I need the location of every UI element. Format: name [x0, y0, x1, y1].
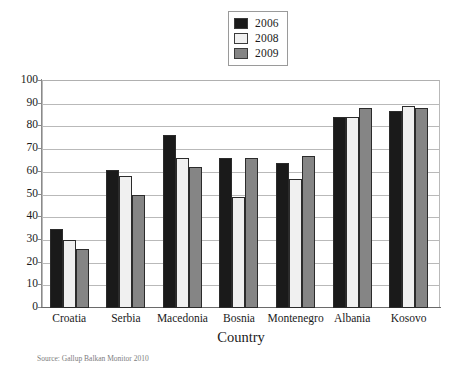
- legend-entry: 2006: [234, 16, 279, 31]
- legend-label-2008: 2008: [255, 33, 279, 45]
- y-tick-label: 100: [4, 74, 38, 86]
- bar: [402, 106, 415, 308]
- x-axis-title: Country: [42, 330, 440, 345]
- y-axis-line: [41, 79, 42, 308]
- y-tick-label: 70: [4, 142, 38, 154]
- source-note: Source: Gallup Balkan Monitor 2010: [37, 355, 149, 365]
- bar: [176, 158, 189, 308]
- x-tick-label: Montenegro: [267, 313, 323, 325]
- bar: [276, 163, 289, 308]
- bar: [163, 135, 176, 308]
- bar: [415, 108, 428, 308]
- bar: [189, 167, 202, 308]
- y-tick-label: 0: [4, 301, 38, 313]
- chart-legend: 2006 2008 2009: [228, 11, 288, 66]
- bar-group: [269, 81, 326, 308]
- bar: [132, 195, 145, 309]
- legend-swatch-2009: [234, 48, 248, 59]
- bar: [232, 197, 245, 308]
- bar: [289, 179, 302, 308]
- bar: [302, 156, 315, 308]
- bar: [50, 229, 63, 308]
- legend-label-2009: 2009: [255, 48, 279, 60]
- bar-group: [326, 81, 383, 308]
- legend-swatch-2006: [234, 18, 248, 29]
- y-tick-label: 10: [4, 279, 38, 291]
- x-tick-label: Macedonia: [157, 313, 208, 325]
- bar-group: [382, 81, 439, 308]
- legend-label-2006: 2006: [255, 18, 279, 30]
- x-tick-label: Serbia: [111, 313, 140, 325]
- y-tick-label: 30: [4, 233, 38, 245]
- y-tick-label: 80: [4, 120, 38, 132]
- x-tick-label: Croatia: [52, 313, 86, 325]
- bar: [346, 117, 359, 308]
- bar: [76, 249, 89, 308]
- bar-group: [100, 81, 157, 308]
- legend-entry: 2008: [234, 31, 279, 46]
- x-tick-label: Bosnia: [223, 313, 255, 325]
- bar: [245, 158, 258, 308]
- y-tick-label: 20: [4, 256, 38, 268]
- bar: [219, 158, 232, 308]
- bar-group: [43, 81, 100, 308]
- y-tick-label: 60: [4, 165, 38, 177]
- bar: [63, 240, 76, 308]
- x-tick-label: Albania: [334, 313, 370, 325]
- y-axis: 0102030405060708090100: [0, 80, 38, 308]
- bar: [333, 117, 346, 308]
- legend-entry: 2009: [234, 46, 279, 61]
- legend-swatch-2008: [234, 33, 248, 44]
- y-tick-label: 90: [4, 97, 38, 109]
- bar-group: [213, 81, 270, 308]
- y-tick-label: 50: [4, 188, 38, 200]
- bar: [389, 111, 402, 308]
- y-tick-label: 40: [4, 210, 38, 222]
- bar: [359, 108, 372, 308]
- bar-group: [156, 81, 213, 308]
- bars-layer: [43, 81, 439, 308]
- bar: [106, 170, 119, 308]
- x-tick-label: Kosovo: [391, 313, 427, 325]
- bar: [119, 176, 132, 308]
